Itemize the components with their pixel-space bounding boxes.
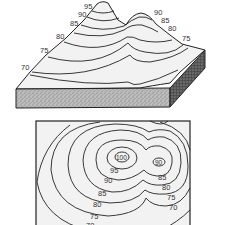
label-85-map: 85 bbox=[98, 189, 106, 198]
label-85-map-right: 85 bbox=[158, 173, 166, 182]
block-3d: 95 90 85 80 75 70 90 85 80 75 bbox=[16, 2, 205, 108]
label-80: 80 bbox=[56, 32, 64, 41]
label-80-map-right: 80 bbox=[162, 183, 170, 192]
block-front-face bbox=[16, 88, 170, 108]
label-75-map-right: 75 bbox=[167, 193, 175, 202]
label-85: 85 bbox=[70, 19, 78, 28]
contour-map: 100 90 95 90 85 80 75 70 85 80 75 70 bbox=[36, 121, 190, 225]
label-75-right: 75 bbox=[182, 34, 190, 43]
label-75-map: 75 bbox=[90, 212, 98, 221]
label-95-map: 95 bbox=[110, 166, 118, 175]
label-90-peak: 90 bbox=[155, 159, 163, 166]
label-90: 90 bbox=[78, 10, 86, 19]
label-100: 100 bbox=[116, 154, 127, 161]
label-75: 75 bbox=[40, 46, 48, 55]
label-70: 70 bbox=[21, 63, 29, 72]
label-70-map-right: 70 bbox=[169, 203, 177, 212]
label-90-map: 90 bbox=[104, 176, 112, 185]
topographic-diagram: 95 90 85 80 75 70 90 85 80 75 bbox=[0, 0, 225, 225]
label-80-map: 80 bbox=[93, 200, 101, 209]
label-70-map: 70 bbox=[86, 221, 94, 225]
label-80-right: 80 bbox=[168, 24, 176, 33]
